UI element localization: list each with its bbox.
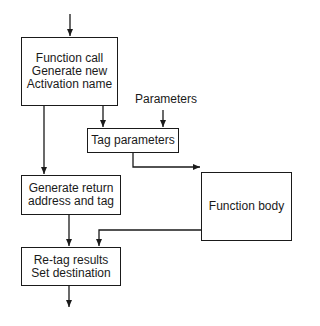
function-call-line-3: Activation name — [27, 78, 112, 91]
tag-to-body-arrow — [133, 153, 200, 167]
body-to-retag-arrow — [99, 230, 201, 246]
parameters-label: Parameters — [135, 92, 197, 106]
retag-results-line-2: Set destination — [31, 267, 110, 280]
function-body-text: Function body — [209, 200, 284, 213]
function-body-box: Function body — [201, 172, 292, 241]
tag-parameters-text: Tag parameters — [91, 134, 174, 147]
tag-parameters-box: Tag parameters — [87, 128, 179, 153]
generate-return-line-2: address and tag — [28, 195, 114, 208]
retag-results-line-1: Re-tag results — [34, 254, 109, 267]
retag-results-box: Re-tag results Set destination — [21, 247, 121, 286]
generate-return-box: Generate return address and tag — [21, 175, 121, 215]
function-call-box: Function call Generate new Activation na… — [21, 37, 118, 106]
